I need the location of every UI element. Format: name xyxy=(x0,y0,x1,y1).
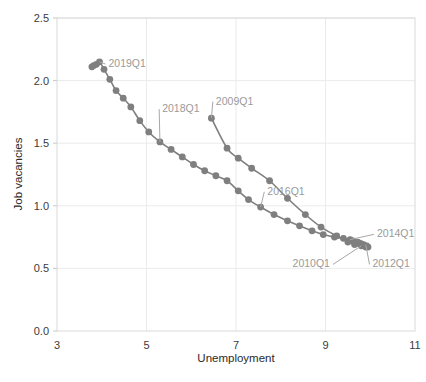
annotation-leader-line xyxy=(350,234,374,239)
annotation-label: 2010Q1 xyxy=(293,257,331,269)
data-point-marker xyxy=(127,103,134,110)
x-axis-title: Unemployment xyxy=(197,352,275,364)
data-point-marker xyxy=(201,167,208,174)
data-point-marker xyxy=(245,196,252,203)
annotation-label: 2014Q1 xyxy=(377,227,415,239)
data-series-layer xyxy=(89,58,372,250)
data-point-marker xyxy=(212,172,219,179)
annotation-label: 2016Q1 xyxy=(267,185,305,197)
chart-canvas: 0.00.51.01.52.02.5 357911 2009Q12010Q120… xyxy=(0,0,426,382)
y-tick-label: 2.5 xyxy=(34,12,49,24)
data-point-marker xyxy=(347,236,354,243)
annotation-label: 2012Q1 xyxy=(372,257,410,269)
y-axis-title: Job vacancies xyxy=(12,137,24,210)
series-line xyxy=(92,62,368,248)
annotation-label: 2018Q1 xyxy=(162,102,200,114)
x-tick-label: 3 xyxy=(54,339,60,351)
y-tick-label: 2.0 xyxy=(34,75,49,87)
data-point-marker xyxy=(89,63,96,70)
data-point-marker xyxy=(266,177,273,184)
data-point-marker xyxy=(271,211,278,218)
data-point-marker xyxy=(168,146,175,153)
x-tick-label: 5 xyxy=(143,339,149,351)
data-point-marker xyxy=(320,231,327,238)
x-tick-label: 7 xyxy=(233,339,239,351)
data-point-marker xyxy=(113,87,120,94)
annotation-leader-line xyxy=(333,246,361,265)
y-tick-label: 0.0 xyxy=(34,325,49,337)
y-tick-label: 1.0 xyxy=(34,200,49,212)
data-point-marker xyxy=(302,211,309,218)
annotation-leader-line xyxy=(159,109,160,142)
x-axis-tick-labels: 357911 xyxy=(54,339,421,351)
data-point-marker xyxy=(235,155,242,162)
y-axis-tick-labels: 0.00.51.01.52.02.5 xyxy=(34,12,57,337)
data-point-marker xyxy=(224,177,231,184)
data-point-marker xyxy=(248,165,255,172)
data-point-marker xyxy=(296,222,303,229)
annotation-label: 2009Q1 xyxy=(216,95,254,107)
data-point-marker xyxy=(101,66,108,73)
data-point-marker xyxy=(340,235,347,242)
x-tick-label: 11 xyxy=(409,339,420,351)
data-point-marker xyxy=(224,145,231,152)
x-tick-label: 9 xyxy=(322,339,328,351)
annotation-labels: 2009Q12010Q12012Q12014Q12016Q12018Q12019… xyxy=(108,57,414,269)
y-tick-label: 0.5 xyxy=(34,262,49,274)
beveridge-curve-chart: 0.00.51.01.52.02.5 357911 2009Q12010Q120… xyxy=(0,0,426,382)
data-point-marker xyxy=(331,234,338,241)
data-point-marker xyxy=(136,117,143,124)
annotation-label: 2019Q1 xyxy=(108,57,146,69)
data-point-marker xyxy=(190,161,197,168)
data-point-marker xyxy=(120,95,127,102)
data-point-marker xyxy=(284,217,291,224)
data-point-marker xyxy=(179,154,186,161)
y-tick-label: 1.5 xyxy=(34,137,49,149)
data-point-marker xyxy=(235,187,242,194)
data-point-marker xyxy=(106,76,113,83)
data-point-marker xyxy=(318,224,325,231)
data-point-marker xyxy=(145,129,152,136)
data-point-marker xyxy=(309,227,316,234)
